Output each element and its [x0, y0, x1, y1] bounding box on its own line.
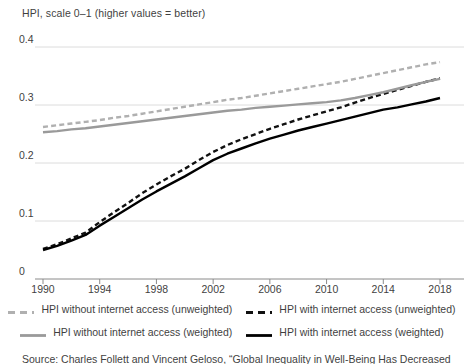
- x-tick-label: 2018: [428, 283, 451, 295]
- y-tick-label: 0.1: [19, 207, 34, 219]
- legend-entry: HPI without internet access (weighted): [20, 326, 232, 338]
- x-tick-label: 2006: [258, 283, 281, 295]
- x-tick-label: 1998: [145, 283, 168, 295]
- legend-label: HPI with internet access (weighted): [279, 326, 444, 338]
- chart-container: HPI, scale 0–1 (higher values = better) …: [0, 0, 464, 364]
- legend-label: HPI without internet access (weighted): [53, 326, 232, 338]
- x-tick-label: 1994: [88, 283, 111, 295]
- x-tick-label: 2010: [315, 283, 338, 295]
- y-tick-label: 0.4: [19, 33, 34, 45]
- legend-entry: HPI with internet access (weighted): [246, 326, 444, 338]
- legend-label: HPI without internet access (unweighted): [41, 303, 232, 315]
- chart-legend: HPI without internet access (unweighted)…: [0, 303, 464, 348]
- y-tick-label: 0.3: [19, 91, 34, 103]
- legend-row-unweighted: HPI without internet access (unweighted)…: [0, 303, 464, 315]
- x-tick-label: 2002: [201, 283, 224, 295]
- x-tick-label: 1990: [31, 283, 54, 295]
- legend-swatch-icon: [8, 304, 34, 315]
- source-note: Source: Charles Follett and Vincent Gelo…: [22, 353, 464, 364]
- plot-area: 00.10.20.30.4 19901994199820022006201020…: [0, 0, 464, 300]
- legend-entry: HPI without internet access (unweighted): [8, 303, 232, 315]
- plot-svg: [0, 0, 464, 300]
- x-tick-label: 2014: [372, 283, 395, 295]
- series-line-3: [43, 79, 440, 132]
- legend-swatch-icon: [246, 327, 272, 338]
- legend-label: HPI with internet access (unweighted): [279, 303, 455, 315]
- legend-entry: HPI with internet access (unweighted): [246, 303, 455, 315]
- y-tick-label: 0: [19, 265, 25, 277]
- legend-swatch-icon: [20, 327, 46, 338]
- legend-row-weighted: HPI without internet access (weighted)HP…: [0, 326, 464, 338]
- series-line-4: [43, 98, 440, 250]
- legend-swatch-icon: [246, 304, 272, 315]
- y-tick-label: 0.2: [19, 149, 34, 161]
